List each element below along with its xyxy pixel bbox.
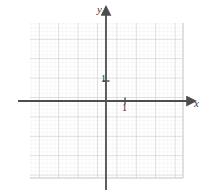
x-axis-label: x [194, 98, 199, 109]
y-axis-label: y [97, 4, 102, 15]
x-axis-unit-tick-label: 1 [122, 103, 127, 113]
y-axis-unit-tick-label: 1 [101, 74, 106, 84]
coordinate-plane-figure: y x 1 1 [0, 0, 208, 196]
coordinate-plane-svg [0, 0, 208, 196]
